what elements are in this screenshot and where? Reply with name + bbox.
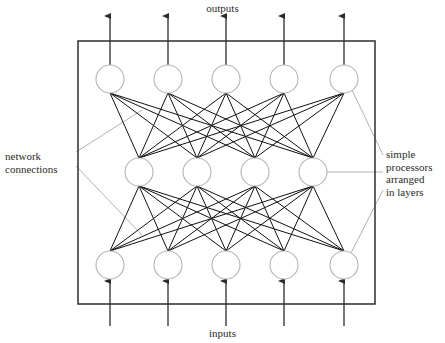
leader-lines-group <box>76 90 383 255</box>
connection-line <box>110 186 197 251</box>
inputs-label: inputs <box>0 327 445 340</box>
connection-line <box>139 93 168 158</box>
processor-node-input <box>154 251 182 279</box>
outputs-label: outputs <box>0 2 445 15</box>
processor-node-output <box>212 65 240 93</box>
neural-network-diagram: outputs inputs network connections simpl… <box>0 0 445 343</box>
processor-node-hidden <box>299 158 327 186</box>
processor-node-output <box>96 65 124 93</box>
processor-node-hidden <box>241 158 269 186</box>
annotation-leader-line-right <box>352 90 383 155</box>
processor-nodes-group <box>96 65 358 279</box>
processor-node-hidden <box>183 158 211 186</box>
connection-line <box>313 186 344 251</box>
connection-line <box>110 186 139 251</box>
connection-line <box>110 186 255 251</box>
processor-node-input <box>270 251 298 279</box>
processor-node-output <box>330 65 358 93</box>
connection-line <box>110 186 313 251</box>
simple-processors-label: simple processors arranged in layers <box>386 148 445 198</box>
processor-node-hidden <box>125 158 153 186</box>
processor-node-input <box>212 251 240 279</box>
network-connections-label: network connections <box>5 150 75 175</box>
connection-line <box>284 93 313 158</box>
processor-node-output <box>270 65 298 93</box>
processor-node-output <box>154 65 182 93</box>
connection-line <box>313 93 344 158</box>
connection-line <box>139 93 284 158</box>
annotation-leader-line-right <box>350 190 383 255</box>
processor-node-input <box>96 251 124 279</box>
connection-line <box>284 186 313 251</box>
processor-node-input <box>330 251 358 279</box>
annotation-leader-line-left <box>76 110 142 152</box>
connection-line <box>168 186 313 251</box>
connection-line <box>110 93 139 158</box>
